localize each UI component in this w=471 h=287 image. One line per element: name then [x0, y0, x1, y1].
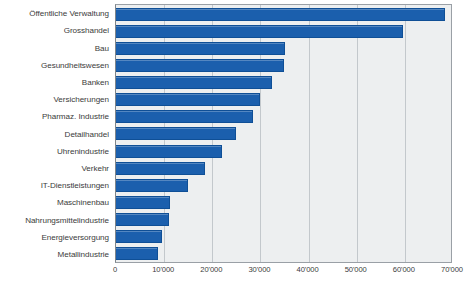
category-label: Uhrenindustrie [0, 143, 112, 160]
category-label: Metallindustrie [0, 246, 112, 263]
category-label: Energieversorgung [0, 229, 112, 246]
bar[interactable] [116, 145, 222, 158]
value-tick-label: 30'000 [248, 265, 270, 274]
bar[interactable] [116, 247, 158, 260]
bar[interactable] [116, 179, 188, 192]
bar[interactable] [116, 8, 445, 21]
category-label: Gesundheitswesen [0, 57, 112, 74]
bar[interactable] [116, 76, 272, 89]
bar-row [116, 177, 451, 194]
value-tick-label: 60'000 [393, 265, 415, 274]
bar-row [116, 40, 451, 57]
value-tick-label: 70'000 [441, 265, 463, 274]
category-label: Nahrungsmittelindustrie [0, 211, 112, 228]
bar-row [116, 194, 451, 211]
category-label: Banken [0, 74, 112, 91]
value-tick-label: 20'000 [200, 265, 222, 274]
category-label: Verkehr [0, 160, 112, 177]
bar-chart: Öffentliche VerwaltungGrosshandelBauGesu… [0, 0, 471, 287]
plot-area [115, 4, 452, 263]
bar-row [116, 143, 451, 160]
bar[interactable] [116, 230, 162, 243]
category-label: Versicherungen [0, 91, 112, 108]
category-label: Maschinenbau [0, 194, 112, 211]
bars-layer [116, 5, 451, 262]
bar-row [116, 160, 451, 177]
value-tick-label: 10'000 [152, 265, 174, 274]
category-label: Pharmaz. Industrie [0, 108, 112, 125]
category-label: Detailhandel [0, 125, 112, 142]
value-axis: 010'00020'00030'00040'00050'00060'00070'… [115, 265, 452, 281]
bar[interactable] [116, 25, 403, 38]
bar-row [116, 23, 451, 40]
bar-row [116, 228, 451, 245]
bar[interactable] [116, 110, 253, 123]
bar-row [116, 91, 451, 108]
category-label: IT-Dienstleistungen [0, 177, 112, 194]
bar[interactable] [116, 162, 205, 175]
bar[interactable] [116, 93, 260, 106]
bar-row [116, 125, 451, 142]
value-tick-label: 0 [113, 265, 117, 274]
value-tick-label: 50'000 [345, 265, 367, 274]
bar-row [116, 74, 451, 91]
bar[interactable] [116, 196, 170, 209]
bar[interactable] [116, 42, 285, 55]
category-label: Bau [0, 39, 112, 56]
category-label: Grosshandel [0, 22, 112, 39]
bar-row [116, 57, 451, 74]
category-label: Öffentliche Verwaltung [0, 5, 112, 22]
bar-row [116, 211, 451, 228]
bar-row [116, 6, 451, 23]
bar[interactable] [116, 59, 284, 72]
bar-row [116, 108, 451, 125]
bar[interactable] [116, 213, 169, 226]
category-axis: Öffentliche VerwaltungGrosshandelBauGesu… [0, 5, 112, 263]
value-tick-label: 40'000 [297, 265, 319, 274]
bar[interactable] [116, 127, 236, 140]
bar-row [116, 245, 451, 262]
